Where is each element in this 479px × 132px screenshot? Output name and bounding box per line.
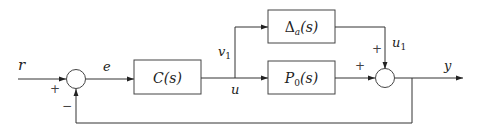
output-label: y xyxy=(443,58,452,73)
sum1-minus-sign: − xyxy=(62,99,72,113)
controller-label: C(s) xyxy=(153,70,182,86)
block-diagram: r + − e C(s) u v1 Δa(s) P0(s) u1 + + y xyxy=(0,0,479,132)
sum1-plus-sign: + xyxy=(50,82,60,96)
reference-label: r xyxy=(18,56,26,74)
control-label: u xyxy=(231,82,239,97)
sum2-delta-plus-sign: + xyxy=(372,42,382,56)
uncertainty-label: Δa(s) xyxy=(285,19,319,37)
v1-signal-line xyxy=(235,27,268,78)
summing-junction-1 xyxy=(67,70,86,89)
summing-junction-2 xyxy=(376,69,395,88)
sum2-plant-plus-sign: + xyxy=(355,59,365,73)
u1-label: u1 xyxy=(392,35,406,52)
plant-label: P0(s) xyxy=(284,70,318,88)
v1-label: v1 xyxy=(218,44,231,61)
feedback-line xyxy=(76,78,412,123)
error-label: e xyxy=(103,59,111,74)
